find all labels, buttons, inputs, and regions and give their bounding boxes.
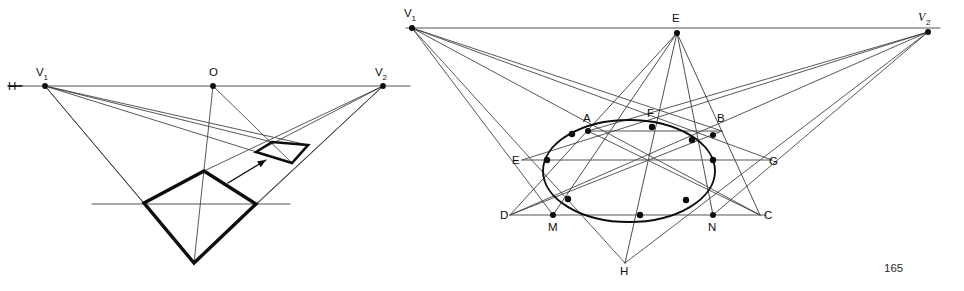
label-sub-V1: 1 <box>44 73 49 82</box>
ellipse-point-3 <box>710 157 716 163</box>
label-text-O: O <box>209 66 218 78</box>
small-quadrilateral <box>256 142 308 163</box>
ray-v2-4 <box>713 32 928 215</box>
point-label-E_top: E <box>672 12 680 24</box>
point-dot-B <box>710 132 716 138</box>
transfer-arrow-head <box>257 160 266 167</box>
label-text-M: M <box>548 221 558 233</box>
ray-v1-1 <box>412 28 772 160</box>
point-label-N: N <box>708 221 716 233</box>
diagonal-D-B <box>510 131 722 215</box>
point-label-B: B <box>717 112 725 124</box>
point-label-D: D <box>500 209 508 221</box>
label-text-E_top: E <box>672 12 680 24</box>
perspective-ellipse <box>543 120 715 222</box>
label-text-H: H <box>8 80 16 92</box>
left-perspective-figure: HV1OV2 <box>0 0 420 291</box>
point-dot-V1 <box>42 83 48 89</box>
ray-v1-3 <box>45 86 308 145</box>
ray-e-4 <box>677 33 760 215</box>
point-label-F: F <box>647 107 654 119</box>
point-dot-E_top <box>674 30 680 36</box>
label-text-C: C <box>764 209 772 221</box>
point-label-H: H <box>620 265 628 277</box>
label-text-H: H <box>620 265 628 277</box>
label-text-D: D <box>500 209 508 221</box>
point-dot-A <box>585 128 591 134</box>
right-perspective-figure: V1EV2AFBEGDCMNH <box>400 0 964 291</box>
label-sub-V2: 2 <box>383 73 388 82</box>
page-number: 165 <box>884 262 903 274</box>
point-label-H: H <box>8 80 16 92</box>
point-label-G: G <box>769 155 778 167</box>
point-dot-V2 <box>925 29 931 35</box>
point-label-E_left: E <box>512 154 520 166</box>
ray-e-2 <box>625 33 677 263</box>
label-text-E_left: E <box>512 154 520 166</box>
ellipse-point-7 <box>544 157 550 163</box>
point-dot-M <box>550 212 556 218</box>
ray-v2-1 <box>522 32 928 160</box>
point-label-A: A <box>583 112 591 124</box>
ray-v2-3 <box>204 86 383 171</box>
point-dot-V2 <box>380 83 386 89</box>
ray-v1-4 <box>412 28 553 215</box>
label-text-B: B <box>717 112 725 124</box>
point-label-C: C <box>764 209 772 221</box>
point-dot-O <box>210 83 216 89</box>
ray-v1-2 <box>45 86 272 142</box>
point-dot-N <box>710 212 716 218</box>
ray-e-3 <box>677 33 713 215</box>
point-label-M: M <box>548 221 558 233</box>
ellipse-point-0 <box>569 131 575 137</box>
figure-page: HV1OV2 V1EV2AFBEGDCMNH 165 <box>0 0 964 291</box>
ellipse-point-5 <box>637 212 643 218</box>
label-text-N: N <box>708 221 716 233</box>
label-text-G: G <box>769 155 778 167</box>
big-quadrilateral <box>144 171 256 263</box>
ellipse-point-4 <box>683 197 689 203</box>
ellipse-point-6 <box>565 196 571 202</box>
point-label-V1: V1 <box>36 66 49 82</box>
ray-e-1 <box>553 33 677 215</box>
point-dot-F <box>649 124 655 130</box>
label-text-F: F <box>647 107 654 119</box>
point-label-V2: V2 <box>918 10 931 27</box>
ray-o-1 <box>213 86 292 163</box>
label-text-A: A <box>583 112 591 124</box>
point-label-V1: V1 <box>404 7 417 23</box>
point-dot-V1 <box>409 25 415 31</box>
point-label-V2: V2 <box>375 66 388 82</box>
ray-v2-0 <box>588 32 928 131</box>
label-sub-V1: 1 <box>412 14 417 23</box>
ellipse-point-2 <box>689 137 695 143</box>
ray-v2-3 <box>625 32 928 263</box>
label-sub-V2: 2 <box>926 18 931 27</box>
page-number-container: 165 <box>884 258 964 288</box>
point-label-O: O <box>209 66 218 78</box>
